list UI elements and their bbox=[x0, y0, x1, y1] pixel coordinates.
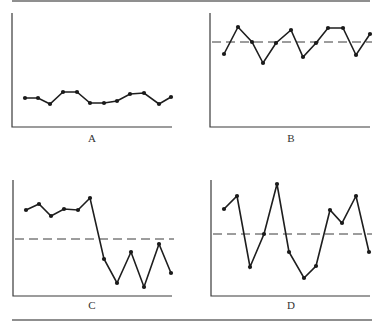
data-point bbox=[301, 55, 305, 59]
data-point bbox=[287, 250, 291, 254]
data-point bbox=[48, 102, 52, 106]
data-point bbox=[302, 276, 306, 280]
data-point bbox=[102, 101, 106, 105]
data-point bbox=[341, 26, 345, 30]
panel-label-b: B bbox=[287, 132, 294, 144]
data-point bbox=[157, 102, 161, 106]
chart-panel-d bbox=[211, 180, 372, 296]
data-point bbox=[275, 182, 279, 186]
axis-frame bbox=[13, 180, 172, 296]
data-point bbox=[261, 61, 265, 65]
panel-label-d: D bbox=[287, 299, 295, 311]
data-point bbox=[102, 257, 106, 261]
data-point bbox=[61, 90, 65, 94]
data-point bbox=[236, 25, 240, 29]
data-point bbox=[49, 214, 53, 218]
data-point bbox=[274, 41, 278, 45]
data-point bbox=[354, 194, 358, 198]
chart-panel-b bbox=[210, 13, 372, 127]
data-point bbox=[115, 99, 119, 103]
data-point bbox=[36, 96, 40, 100]
data-point bbox=[76, 208, 80, 212]
data-point bbox=[354, 53, 358, 57]
panel-label-c: C bbox=[88, 299, 95, 311]
panel-label-a: A bbox=[88, 132, 96, 144]
data-point bbox=[222, 207, 226, 211]
data-point bbox=[289, 28, 293, 32]
data-point bbox=[235, 194, 239, 198]
data-point bbox=[129, 250, 133, 254]
data-point bbox=[328, 208, 332, 212]
data-point bbox=[169, 95, 173, 99]
data-point bbox=[314, 264, 318, 268]
data-point bbox=[250, 40, 254, 44]
data-point bbox=[88, 196, 92, 200]
data-point bbox=[326, 26, 330, 30]
data-point bbox=[24, 208, 28, 212]
series-line bbox=[25, 92, 171, 104]
chart-panel-c bbox=[13, 180, 174, 296]
data-point bbox=[142, 91, 146, 95]
data-point bbox=[340, 221, 344, 225]
series-line bbox=[26, 198, 171, 287]
data-point bbox=[368, 32, 372, 36]
data-point bbox=[23, 96, 27, 100]
data-point bbox=[157, 242, 161, 246]
data-point bbox=[88, 101, 92, 105]
data-point bbox=[367, 250, 371, 254]
data-point bbox=[62, 207, 66, 211]
data-point bbox=[75, 90, 79, 94]
data-point bbox=[37, 202, 41, 206]
chart-panel-a bbox=[12, 13, 173, 127]
data-point bbox=[169, 271, 173, 275]
data-point bbox=[248, 265, 252, 269]
figure-canvas bbox=[0, 0, 378, 321]
data-point bbox=[262, 232, 266, 236]
data-point bbox=[222, 52, 226, 56]
data-point bbox=[128, 92, 132, 96]
axis-frame bbox=[12, 13, 172, 127]
series-line bbox=[224, 27, 370, 63]
series-line bbox=[224, 184, 369, 278]
data-point bbox=[142, 285, 146, 289]
data-point bbox=[115, 281, 119, 285]
data-point bbox=[314, 41, 318, 45]
